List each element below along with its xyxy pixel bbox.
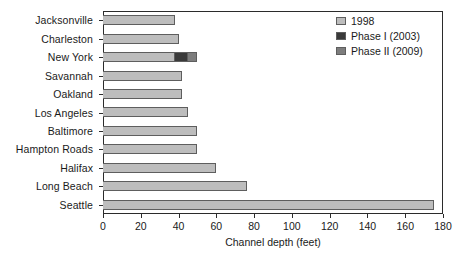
bar-segment-1998 (103, 127, 196, 135)
x-tick-label-140: 140 (359, 220, 377, 232)
bar-segment-1998 (103, 90, 181, 98)
bar-segment-phase-i-2003 (174, 53, 187, 61)
bar-segment-1998 (103, 182, 246, 190)
legend-label: 1998 (351, 16, 374, 27)
bar-row (103, 177, 247, 195)
bar-row (103, 103, 188, 121)
legend-label: Phase II (2009) (351, 46, 423, 57)
legend-item-1998: 1998 (336, 16, 423, 27)
legend: 1998Phase I (2003)Phase II (2009) (336, 16, 423, 57)
x-tick-label-160: 160 (396, 220, 414, 232)
bar-seattle (103, 200, 434, 210)
y-tick-label-jacksonville: Jacksonville (35, 14, 93, 26)
y-tick-label-baltimore: Baltimore (48, 125, 93, 137)
bar-segment-1998 (103, 53, 174, 61)
bar-savannah (103, 71, 182, 81)
bar-charleston (103, 34, 179, 44)
x-tick-label-120: 120 (321, 220, 339, 232)
x-tick-mark (443, 214, 444, 218)
x-tick-mark (103, 214, 104, 218)
bar-segment-1998 (103, 145, 196, 153)
y-axis: JacksonvilleCharlestonNew YorkSavannahOa… (0, 11, 99, 214)
legend-item-phase-ii-2009: Phase II (2009) (336, 46, 423, 57)
y-tick-label-hampton-roads: Hampton Roads (16, 143, 93, 155)
y-tick-label-los-angeles: Los Angeles (35, 107, 93, 119)
bar-row (103, 66, 182, 84)
legend-swatch-icon (336, 17, 346, 25)
y-tick-label-seattle: Seattle (60, 199, 93, 211)
bar-row (103, 140, 197, 158)
bar-long-beach (103, 181, 247, 191)
y-tick-label-oakland: Oakland (53, 88, 93, 100)
bar-row (103, 85, 182, 103)
x-tick-mark (367, 214, 368, 218)
bar-segment-1998 (103, 201, 433, 209)
x-axis-title: Channel depth (feet) (103, 236, 443, 248)
legend-swatch-icon (336, 32, 346, 40)
x-tick-mark (330, 214, 331, 218)
x-tick-label-0: 0 (100, 220, 106, 232)
bar-row (103, 11, 175, 29)
bar-baltimore (103, 126, 197, 136)
y-tick-label-charleston: Charleston (41, 33, 93, 45)
x-tick-mark (292, 214, 293, 218)
x-tick-label-80: 80 (248, 220, 260, 232)
x-tick-label-60: 60 (210, 220, 222, 232)
legend-swatch-icon (336, 47, 346, 55)
y-tick-label-halifax: Halifax (60, 162, 93, 174)
bar-segment-1998 (103, 16, 174, 24)
bar-segment-phase-ii-2009 (187, 53, 196, 61)
legend-item-phase-i-2003: Phase I (2003) (336, 31, 423, 42)
bar-segment-1998 (103, 35, 178, 43)
bar-chart: JacksonvilleCharlestonNew YorkSavannahOa… (0, 0, 466, 264)
bar-halifax (103, 163, 216, 173)
x-tick-mark (254, 214, 255, 218)
y-tick-label-new-york: New York (48, 51, 93, 63)
bar-segment-1998 (103, 108, 187, 116)
y-tick-label-savannah: Savannah (45, 70, 93, 82)
x-tick-mark (405, 214, 406, 218)
x-tick-mark (216, 214, 217, 218)
bar-oakland (103, 89, 182, 99)
bar-los-angeles (103, 107, 188, 117)
x-tick-mark (141, 214, 142, 218)
bar-row (103, 48, 197, 66)
legend-label: Phase I (2003) (351, 31, 420, 42)
x-tick-label-180: 180 (434, 220, 452, 232)
x-axis: 020406080100120140160180 (103, 214, 443, 215)
x-tick-label-20: 20 (135, 220, 147, 232)
bar-hampton-roads (103, 144, 197, 154)
y-tick-label-long-beach: Long Beach (36, 180, 93, 192)
bar-segment-1998 (103, 164, 215, 172)
bar-jacksonville (103, 15, 175, 25)
bar-row (103, 159, 216, 177)
bar-row (103, 196, 434, 214)
bar-row (103, 122, 197, 140)
x-tick-label-40: 40 (173, 220, 185, 232)
x-tick-label-100: 100 (283, 220, 301, 232)
bar-row (103, 29, 179, 47)
bar-new-york (103, 52, 197, 62)
bar-segment-1998 (103, 72, 181, 80)
x-tick-mark (179, 214, 180, 218)
